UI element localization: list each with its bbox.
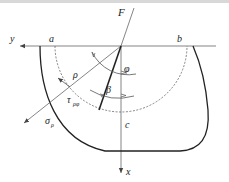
force-label: F [117, 6, 125, 18]
svg-text:ρ: ρ [50, 122, 54, 128]
body-contour [40, 46, 208, 151]
svg-text:τ: τ [67, 94, 71, 105]
arrow-icon [121, 94, 126, 97]
cut-off-text-line [0, 0, 229, 3]
stress-diagram: F y a b c x ρ φ β τ ρφ σ ρ [0, 0, 229, 182]
normal-stress-label: σ ρ [45, 115, 54, 128]
point-b-label: b [177, 33, 182, 44]
shear-stress-arrow [58, 78, 70, 87]
angle-beta-label: β [105, 84, 111, 95]
radius-label: ρ [72, 69, 78, 80]
svg-text:ρφ: ρφ [72, 101, 80, 107]
angle-beta-arc [90, 90, 134, 98]
beta-line [99, 46, 121, 110]
point-a-label: a [49, 33, 54, 44]
x-axis-label: x [125, 166, 131, 177]
y-axis-label: y [9, 33, 15, 44]
point-c-label: c [125, 119, 130, 130]
angle-phi-label: φ [124, 63, 130, 74]
